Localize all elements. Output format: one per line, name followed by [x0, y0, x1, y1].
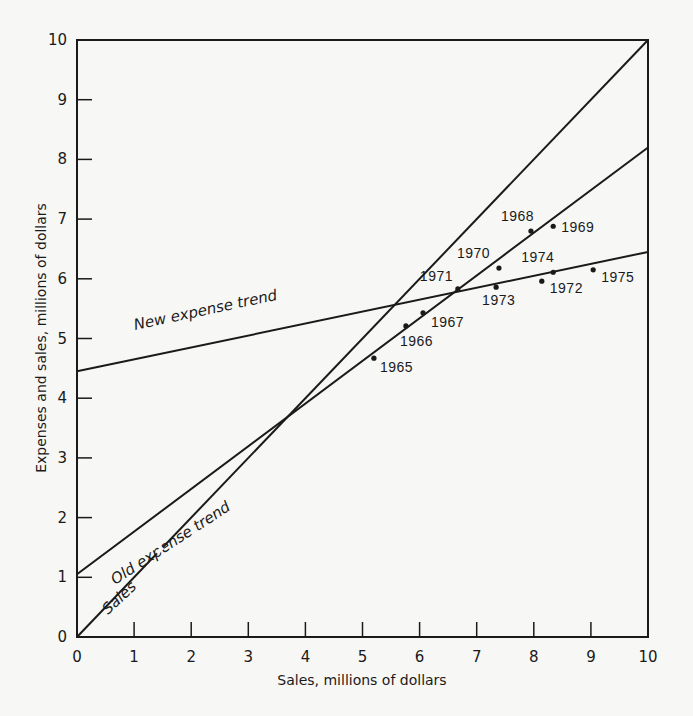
x-tick-label: 0 [72, 648, 82, 666]
x-tick-label: 10 [638, 648, 657, 666]
data-point [403, 323, 408, 328]
point-label: 1975 [601, 269, 634, 285]
data-point [551, 270, 556, 275]
x-tick-label: 1 [129, 648, 139, 666]
data-point [371, 356, 376, 361]
data-point [528, 228, 533, 233]
point-label: 1969 [561, 219, 594, 235]
x-tick-label: 5 [358, 648, 368, 666]
point-label: 1965 [380, 359, 413, 375]
data-point [494, 285, 499, 290]
line-label: New expense trend [132, 286, 279, 334]
y-tick-label: 10 [48, 31, 67, 49]
y-tick-label: 4 [57, 389, 67, 407]
data-points: 1965196619671968196919701971197219731974… [371, 208, 634, 375]
data-point [539, 279, 544, 284]
old-expense-trend-line [77, 147, 648, 574]
y-tick-label: 1 [57, 568, 67, 586]
chart-canvas: 012345678910012345678910 196519661967196… [0, 0, 693, 716]
y-tick-label: 3 [57, 449, 67, 467]
x-tick-label: 2 [186, 648, 196, 666]
y-tick-label: 2 [57, 509, 67, 527]
x-tick-label: 8 [529, 648, 539, 666]
data-point [496, 265, 501, 270]
x-tick-label: 9 [586, 648, 596, 666]
data-point [551, 224, 556, 229]
line-label: Old expense trend [107, 497, 234, 588]
x-tick-label: 3 [244, 648, 254, 666]
y-tick-label: 6 [57, 270, 67, 288]
x-axis-title: Sales, millions of dollars [277, 672, 446, 688]
x-tick-label: 4 [301, 648, 311, 666]
x-tick-label: 7 [472, 648, 482, 666]
data-point [591, 267, 596, 272]
point-label: 1967 [431, 314, 464, 330]
point-label: 1972 [550, 280, 583, 296]
y-tick-label: 0 [57, 628, 67, 646]
y-tick-label: 7 [57, 210, 67, 228]
data-point [420, 310, 425, 315]
point-label: 1970 [457, 245, 490, 261]
point-label: 1968 [501, 208, 534, 224]
y-tick-label: 8 [57, 150, 67, 168]
x-tick-label: 6 [415, 648, 425, 666]
point-label: 1966 [400, 333, 433, 349]
y-axis-title: Expenses and sales, millions of dollars [33, 203, 49, 473]
data-point [455, 286, 460, 291]
point-label: 1974 [521, 249, 554, 265]
point-label: 1971 [420, 268, 453, 284]
y-tick-label: 5 [57, 330, 67, 348]
y-tick-label: 9 [57, 91, 67, 109]
point-label: 1973 [482, 292, 515, 308]
